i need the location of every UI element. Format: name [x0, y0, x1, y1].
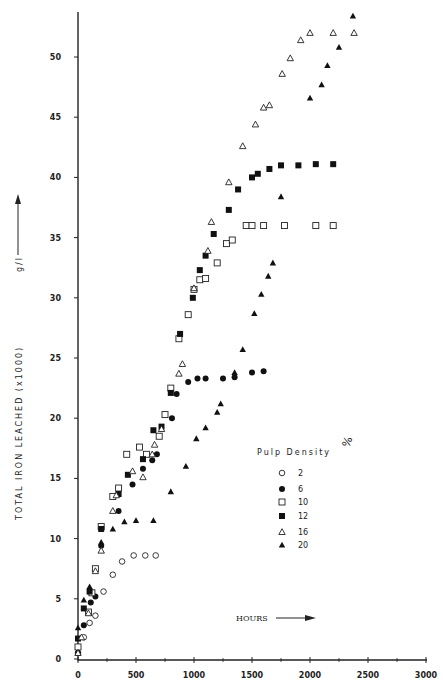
data-point-12: [197, 267, 203, 273]
data-point-10: [330, 223, 336, 229]
data-point-16: [298, 37, 304, 43]
data-point-10: [281, 223, 287, 229]
data-point-6: [203, 375, 209, 381]
data-point-20: [307, 95, 313, 101]
x-tick-label: 3000: [415, 671, 438, 680]
data-point-20: [183, 463, 189, 469]
data-point-12: [235, 186, 241, 192]
data-point-12: [226, 207, 232, 213]
data-point-12: [81, 605, 87, 611]
data-point-12: [211, 231, 217, 237]
data-point-6: [220, 375, 226, 381]
data-point-16: [176, 370, 182, 376]
data-point-6: [261, 368, 267, 374]
data-point-12: [177, 331, 183, 337]
data-point-12: [249, 174, 255, 180]
data-point-10: [243, 223, 249, 229]
legend-marker-16: [279, 529, 285, 535]
data-point-20: [270, 260, 276, 266]
data-point-20: [258, 291, 264, 297]
data-point-10: [249, 223, 255, 229]
data-point-6: [81, 622, 87, 628]
up-arrow-icon: [15, 194, 21, 204]
data-point-10: [124, 451, 130, 457]
data-point-16: [151, 441, 157, 447]
data-point-16: [226, 179, 232, 185]
data-point-20: [86, 583, 92, 589]
data-point-16: [330, 30, 336, 36]
data-point-6: [130, 481, 136, 487]
data-point-16: [179, 361, 185, 367]
data-point-10: [116, 485, 122, 491]
data-point-2: [93, 613, 99, 619]
data-point-12: [150, 427, 156, 433]
data-point-16: [110, 508, 116, 514]
data-point-6: [174, 391, 180, 397]
data-point-2: [119, 559, 125, 565]
data-point-12: [255, 171, 261, 177]
data-point-20: [168, 488, 174, 494]
data-point-20: [193, 435, 199, 441]
data-point-20: [240, 346, 246, 352]
data-point-2: [110, 572, 116, 578]
legend-marker-12: [279, 513, 285, 519]
data-point-12: [266, 166, 272, 172]
data-point-6: [169, 415, 175, 421]
data-point-16: [307, 30, 313, 36]
legend-marker-6: [279, 486, 285, 492]
y-tick-label: 0: [55, 655, 61, 664]
y-tick-label: 15: [50, 474, 62, 483]
data-point-12: [168, 390, 174, 396]
y-axis-label: TOTAL IRON LEACHED (x1000): [15, 346, 24, 521]
y-tick-label: 40: [50, 173, 62, 182]
legend-marker-10: [279, 499, 285, 505]
data-point-16: [279, 71, 285, 77]
data-point-12: [140, 456, 146, 462]
right-arrow-icon: [305, 615, 316, 621]
x-tick-label: 1500: [241, 671, 264, 680]
data-point-12: [190, 295, 196, 301]
data-point-6: [194, 375, 200, 381]
data-point-20: [133, 517, 139, 523]
data-point-2: [153, 553, 159, 559]
y-tick-label: 35: [50, 234, 62, 243]
data-point-12: [87, 589, 93, 595]
data-point-10: [162, 412, 168, 418]
legend-unit: %: [340, 435, 356, 449]
data-point-10: [214, 260, 220, 266]
data-point-20: [75, 624, 81, 630]
y-tick-label: 10: [50, 535, 62, 544]
legend-label: 2: [298, 469, 303, 478]
data-point-2: [101, 589, 107, 595]
data-point-20: [110, 526, 116, 532]
data-point-16: [240, 143, 246, 149]
legend-marker-20: [279, 542, 285, 548]
data-point-10: [185, 312, 191, 318]
data-point-6: [249, 369, 255, 375]
data-point-16: [140, 474, 146, 480]
legend-label: 6: [298, 485, 303, 494]
data-point-6: [149, 457, 155, 463]
data-point-6: [116, 508, 122, 514]
data-point-2: [131, 553, 137, 559]
data-point-16: [260, 104, 266, 110]
data-point-6: [88, 599, 94, 605]
iron-leaching-chart: 0500100015002000250030000510152025303540…: [0, 0, 443, 683]
data-point-16: [129, 468, 135, 474]
data-point-20: [251, 310, 257, 316]
data-point-16: [351, 30, 357, 36]
data-point-12: [313, 161, 319, 167]
data-point-2: [142, 553, 148, 559]
data-point-10: [156, 433, 162, 439]
y-tick-label: 25: [50, 354, 62, 363]
x-tick-label: 0: [75, 671, 81, 680]
data-point-2: [87, 620, 93, 626]
data-point-20: [121, 518, 127, 524]
legend-title: Pulp Density: [257, 448, 331, 457]
data-point-10: [197, 277, 203, 283]
data-point-20: [231, 369, 237, 375]
y-tick-label: 5: [55, 595, 61, 604]
data-point-20: [350, 13, 356, 19]
y-tick-label: 20: [50, 414, 62, 423]
x-tick-label: 2500: [357, 671, 380, 680]
